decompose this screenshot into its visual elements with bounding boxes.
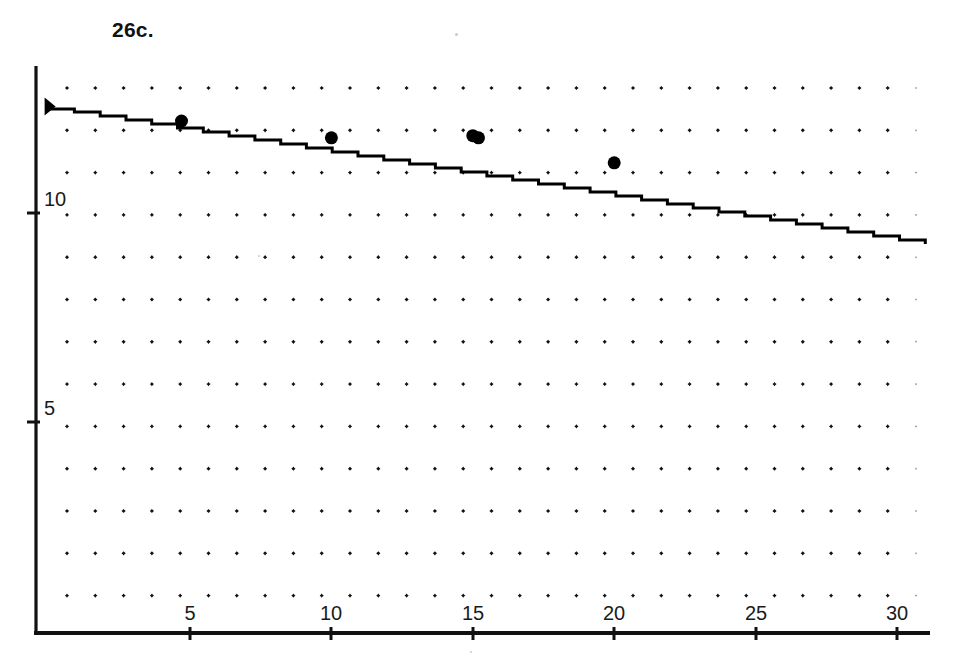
grid-dot [631, 594, 635, 598]
grid-dot [716, 382, 720, 386]
grid-dot [320, 171, 324, 175]
grid-dot [772, 340, 776, 344]
grid-dot [886, 551, 890, 555]
grid-dot [150, 424, 154, 428]
grid-dot [348, 171, 352, 175]
grid-dot [320, 467, 324, 471]
grid-dot [857, 551, 861, 555]
grid-dot [603, 128, 607, 132]
grid-dot [915, 594, 917, 596]
grid-dot [574, 86, 578, 90]
grid-dot [263, 382, 267, 386]
grid-dot [886, 509, 890, 513]
grid-dot [716, 509, 720, 513]
grid-dot [178, 594, 182, 598]
grid-dot [461, 297, 465, 301]
grid-dot [206, 509, 210, 513]
grid-dot [150, 255, 154, 259]
grid-dot [772, 594, 776, 598]
grid-dot [178, 467, 182, 471]
grid-dot [744, 171, 748, 175]
grid-dot [886, 297, 890, 301]
data-point [472, 131, 485, 144]
grid-dot [461, 551, 465, 555]
grid-dot [235, 171, 239, 175]
grid-dot [461, 594, 465, 598]
grid-dot [546, 255, 550, 259]
grid-dot [631, 213, 635, 217]
grid-dot [546, 467, 550, 471]
grid-dot [405, 86, 409, 90]
grid-dot [631, 128, 635, 132]
grid-dot [348, 551, 352, 555]
grid-dot [405, 171, 409, 175]
grid-dot [915, 468, 917, 470]
grid-dot [772, 509, 776, 513]
grid-dot [291, 340, 295, 344]
grid-dot [376, 128, 380, 132]
grid-dot [857, 213, 861, 217]
grid-dot [518, 594, 522, 598]
grid-dot [291, 297, 295, 301]
grid-dot [206, 86, 210, 90]
grid-dot [263, 340, 267, 344]
grid-dot [291, 424, 295, 428]
grid-dot [263, 424, 267, 428]
grid-dot [915, 341, 917, 343]
grid-dot [688, 255, 692, 259]
grid-dot [489, 509, 493, 513]
grid-dot [65, 382, 69, 386]
grid-dot [93, 509, 97, 513]
grid-dot [235, 509, 239, 513]
grid-dot [518, 255, 522, 259]
intercept-arrow-icon [45, 97, 56, 115]
grid-dot [291, 171, 295, 175]
grid-dot [546, 128, 550, 132]
grid-dot [688, 382, 692, 386]
grid-dot [631, 297, 635, 301]
grid-dot [433, 340, 437, 344]
grid-dot [150, 594, 154, 598]
grid-dot [603, 594, 607, 598]
grid-dot [574, 255, 578, 259]
grid-dot [546, 86, 550, 90]
grid-dot [433, 551, 437, 555]
grid-dot [405, 594, 409, 598]
grid-dot [546, 382, 550, 386]
grid-dot [659, 86, 663, 90]
grid-dot [829, 255, 833, 259]
grid-dot [546, 340, 550, 344]
grid-dot [65, 128, 69, 132]
grid-dot [688, 213, 692, 217]
grid-dot [631, 86, 635, 90]
grid-dot [150, 382, 154, 386]
grid-dot [348, 424, 352, 428]
grid-dot [65, 594, 69, 598]
grid-dot [801, 297, 805, 301]
grid-dot [801, 382, 805, 386]
grid-dot [320, 340, 324, 344]
grid-dot [518, 297, 522, 301]
grid-dot [603, 86, 607, 90]
grid-dot [122, 213, 126, 217]
grid-dot [857, 382, 861, 386]
grid-dot [65, 340, 69, 344]
grid-dot [206, 382, 210, 386]
grid-dot [263, 171, 267, 175]
grid-dot [716, 594, 720, 598]
regression-line-path [49, 109, 926, 244]
grid-dot [206, 424, 210, 428]
x-tick-label-15: 15 [462, 602, 484, 624]
grid-dot [376, 255, 380, 259]
grid-dot [659, 255, 663, 259]
grid-dot [688, 594, 692, 598]
grid-dot [857, 424, 861, 428]
grid-dot [829, 467, 833, 471]
grid-dot [886, 467, 890, 471]
grid-dot [93, 551, 97, 555]
grid-dot [263, 86, 267, 90]
grid-dot [603, 424, 607, 428]
scan-speck [455, 33, 458, 36]
grid-dot [574, 382, 578, 386]
grid-dot [178, 509, 182, 513]
